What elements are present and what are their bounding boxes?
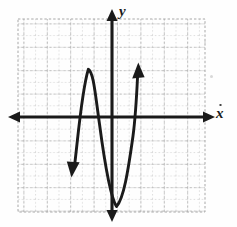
x-axis-arrow-left: [8, 112, 20, 123]
scan-speck: [204, 41, 206, 43]
x-axis-arrow-right: [203, 112, 215, 123]
coordinate-plane-svg: [0, 0, 237, 227]
scan-speck: [210, 75, 213, 78]
y-axis-label: y: [119, 4, 126, 19]
x-axis-label: x: [216, 106, 224, 121]
y-axis-arrow-up: [107, 9, 118, 21]
graph-figure: y x: [0, 0, 237, 227]
y-axis-arrow-down: [107, 210, 118, 222]
